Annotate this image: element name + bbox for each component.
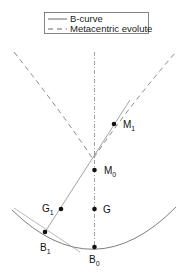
label-m0: M0 [104, 165, 116, 178]
b-curve [12, 207, 176, 249]
diagram-canvas: B-curve Metacentric evolute M1 M0 G G1 B… [0, 0, 186, 278]
tangent-line-b1 [14, 208, 80, 252]
label-m1: M1 [123, 119, 135, 132]
label-g: G [103, 204, 111, 215]
point-m1 [112, 122, 117, 127]
label-b1: B1 [40, 242, 51, 255]
point-g [92, 207, 97, 212]
label-g1: G1 [42, 203, 54, 216]
legend-label-metacentric-evolute: Metacentric evolute [70, 23, 152, 34]
point-b0 [92, 245, 97, 250]
legend: B-curve Metacentric evolute [45, 13, 153, 35]
point-m0 [92, 168, 97, 173]
point-g1 [59, 207, 64, 212]
buoyancy-line-b1-m1 [45, 100, 130, 232]
point-b1 [43, 230, 48, 235]
label-b0: B0 [89, 254, 100, 267]
